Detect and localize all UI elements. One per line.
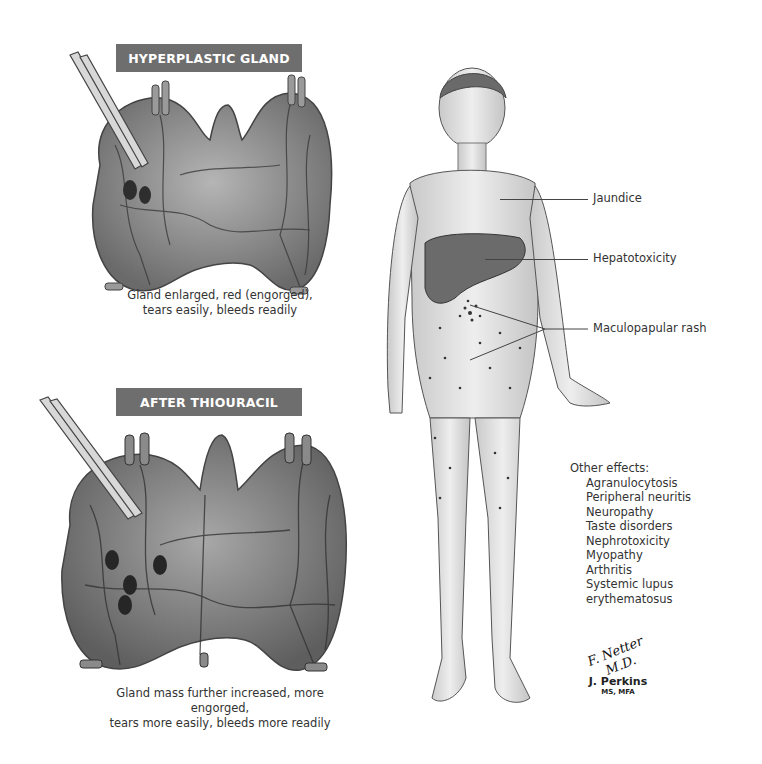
artist-credentials: MS, MFA [578, 688, 658, 696]
effect-item: Myopathy [570, 548, 762, 563]
caption-line: tears easily, bleeds readily [120, 303, 320, 318]
hepatotoxicity-leader-line [485, 259, 588, 260]
caption-line: Gland mass further increased, more engor… [100, 686, 340, 716]
effect-item: Arthritis [570, 563, 762, 578]
effect-item: Taste disorders [570, 519, 762, 534]
label-maculopapular-rash: Maculopapular rash [593, 321, 706, 335]
artist-signature: F. Netter M.D. J. Perkins MS, MFA [578, 643, 658, 696]
effect-item: Nephrotoxicity [570, 534, 762, 549]
panel-caption-after-thiouracil: Gland mass further increased, more engor… [100, 686, 340, 731]
effect-item: Neuropathy [570, 505, 762, 520]
panel-caption-hyperplastic: Gland enlarged, red (engorged), tears ea… [120, 288, 320, 318]
hyperplastic-gland-illustration [60, 55, 350, 305]
jaundice-leader-line [500, 199, 588, 200]
label-jaundice: Jaundice [593, 191, 642, 205]
rash-leader-lines [470, 300, 590, 370]
other-effects-heading: Other effects: [570, 461, 762, 476]
caption-line: Gland enlarged, red (engorged), [120, 288, 320, 303]
after-thiouracil-gland-illustration [40, 395, 360, 685]
effect-item: Peripheral neuritis [570, 490, 762, 505]
patient-figure-illustration [370, 58, 620, 718]
effect-item: Systemic lupus erythematosus [570, 577, 762, 606]
caption-line: tears more easily, bleeds more readily [100, 716, 340, 731]
effect-item: Agranulocytosis [570, 476, 762, 491]
label-hepatotoxicity: Hepatotoxicity [593, 251, 677, 265]
other-effects-list: Other effects: Agranulocytosis Periphera… [570, 461, 762, 606]
